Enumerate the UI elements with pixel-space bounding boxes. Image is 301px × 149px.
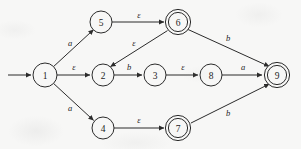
transition-1-to-2: ε xyxy=(57,62,90,75)
transition-6-to-9: b xyxy=(187,29,269,67)
automaton-figure: a ε ε ε b ε a b xyxy=(0,0,301,149)
state-4[interactable]: 4 xyxy=(92,117,114,139)
state-1[interactable]: 1 xyxy=(33,63,57,87)
state-label-3: 3 xyxy=(153,71,158,81)
state-label-7: 7 xyxy=(176,124,181,134)
state-7[interactable]: 7 xyxy=(165,115,190,140)
transition-8-to-9: a xyxy=(222,62,262,75)
state-2[interactable]: 2 xyxy=(92,64,114,86)
transition-label-5-6: ε xyxy=(137,10,141,20)
transition-label-4-7: ε xyxy=(137,115,141,125)
transition-5-to-6: ε xyxy=(112,10,164,22)
transition-label-7-9: b xyxy=(226,108,230,118)
state-3[interactable]: 3 xyxy=(144,64,166,86)
state-label-8: 8 xyxy=(209,71,214,81)
state-label-4: 4 xyxy=(101,124,106,134)
state-diagram-canvas: a ε ε ε b ε a b xyxy=(0,0,301,149)
state-label-1: 1 xyxy=(43,71,48,81)
transition-label-3-8: ε xyxy=(181,62,185,72)
state-label-2: 2 xyxy=(101,71,106,81)
state-label-6: 6 xyxy=(176,18,181,28)
transition-2-to-3: b xyxy=(114,62,142,75)
transition-7-to-9: b xyxy=(191,84,269,123)
transition-label-6-2: ε xyxy=(132,38,136,48)
transition-label-1-5: a xyxy=(68,38,72,48)
transition-label-6-9: b xyxy=(226,33,230,43)
state-label-9: 9 xyxy=(275,71,280,81)
transition-1-to-4: a xyxy=(54,83,94,120)
transition-3-to-8: ε xyxy=(166,62,198,75)
state-9[interactable]: 9 xyxy=(264,62,289,87)
transition-6-to-2: ε xyxy=(110,31,167,67)
transition-label-8-9: a xyxy=(241,62,245,72)
transition-label-2-3: b xyxy=(127,62,131,72)
transition-label-1-2: ε xyxy=(72,62,76,72)
transition-label-1-4: a xyxy=(68,103,72,113)
state-5[interactable]: 5 xyxy=(90,11,112,33)
state-8[interactable]: 8 xyxy=(200,64,222,86)
transition-4-to-7: ε xyxy=(114,115,164,128)
state-6[interactable]: 6 xyxy=(165,9,190,34)
state-label-5: 5 xyxy=(99,18,104,28)
